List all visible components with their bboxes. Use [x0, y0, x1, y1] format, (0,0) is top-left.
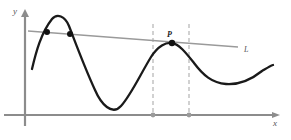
axis-dot-right	[187, 113, 192, 118]
x-axis	[4, 112, 280, 118]
line-l-label: L	[243, 45, 249, 54]
y-axis	[21, 9, 29, 126]
y-axis-label: y	[12, 6, 17, 16]
math-function-diagram: y x L P	[0, 0, 291, 140]
intersection-dot-1	[44, 29, 50, 35]
tangent-line-L	[28, 31, 238, 47]
intersection-dot-2	[67, 31, 73, 37]
x-axis-label: x	[272, 118, 277, 128]
point-p-dot	[169, 40, 175, 46]
y-axis-arrow-icon	[21, 9, 29, 17]
axis-dot-left	[151, 113, 156, 118]
point-p-label: P	[167, 30, 172, 39]
